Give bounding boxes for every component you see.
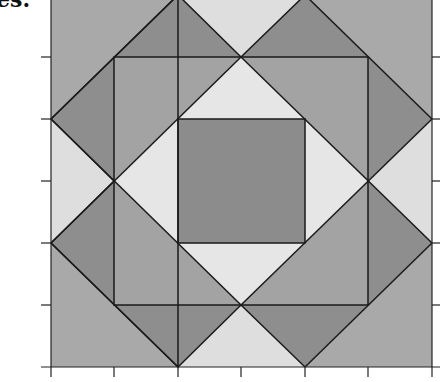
center-square	[178, 119, 305, 243]
quilt-diagram	[0, 0, 440, 382]
